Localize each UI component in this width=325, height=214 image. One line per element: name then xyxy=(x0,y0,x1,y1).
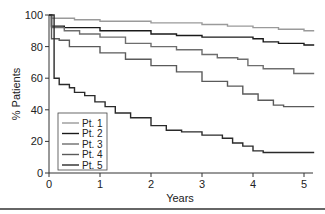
legend-label-pt-5: Pt. 5 xyxy=(82,160,103,171)
survival-chart: 012345020406080100 Years % Patients Pt. … xyxy=(0,0,325,214)
y-tick-label: 100 xyxy=(25,9,43,21)
bottom-divider xyxy=(0,208,325,210)
x-axis-title: Years xyxy=(166,192,194,204)
x-tick-label: 2 xyxy=(148,178,154,190)
y-axis-title: % Patients xyxy=(10,67,22,120)
x-tick-label: 0 xyxy=(46,178,52,190)
legend-label-pt-3: Pt. 3 xyxy=(82,139,103,150)
x-tick-label: 1 xyxy=(97,178,103,190)
y-tick-label: 60 xyxy=(31,72,43,84)
x-tick-label: 4 xyxy=(250,178,256,190)
legend-label-pt-1: Pt. 1 xyxy=(82,118,103,129)
y-tick-label: 20 xyxy=(31,135,43,147)
legend-label-pt-4: Pt. 4 xyxy=(82,149,103,160)
x-tick-label: 3 xyxy=(199,178,205,190)
x-tick-label: 5 xyxy=(301,178,307,190)
y-tick-label: 80 xyxy=(31,41,43,53)
series-line-pt-1 xyxy=(49,15,314,31)
legend: Pt. 1Pt. 2Pt. 3Pt. 4Pt. 5 xyxy=(58,113,107,171)
series-line-pt-3 xyxy=(49,15,314,74)
legend-label-pt-2: Pt. 2 xyxy=(82,128,103,139)
y-tick-label: 40 xyxy=(31,104,43,116)
y-tick-label: 0 xyxy=(37,167,43,179)
series-line-pt-4 xyxy=(49,15,314,107)
